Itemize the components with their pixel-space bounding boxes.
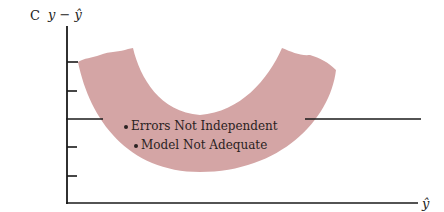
x-axis-label: ŷ — [422, 196, 429, 211]
residual-band — [78, 48, 336, 172]
panel-label: C — [30, 8, 40, 23]
y-axis-label: y − ŷ — [48, 7, 82, 22]
annotation-errors-not-independent: Errors Not Independent — [124, 119, 278, 133]
bullet-icon — [124, 125, 128, 129]
annotation-model-not-adequate: Model Not Adequate — [134, 138, 267, 152]
bullet-icon — [134, 144, 138, 148]
residual-plot — [0, 0, 444, 212]
